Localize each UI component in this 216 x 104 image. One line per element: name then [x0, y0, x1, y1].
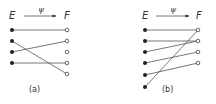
panel-b: E ψ F (b)	[142, 5, 202, 94]
panel-a: E ψ F (a)	[9, 5, 70, 94]
codomain-label-f: F	[64, 10, 70, 21]
domain-label-e: E	[142, 10, 149, 21]
domain-label-e: E	[9, 10, 16, 21]
mapping-edges	[12, 30, 67, 74]
map-label-psi: ψ	[38, 5, 45, 14]
caption-a: (a)	[29, 85, 40, 94]
domain-points	[143, 28, 147, 89]
domain-points	[10, 28, 14, 65]
mapping-edges	[145, 30, 198, 87]
codomain-label-f: F	[196, 10, 202, 21]
function-mapping-diagrams: E ψ F (a) E ψ F	[0, 0, 216, 104]
codomain-points	[196, 28, 200, 65]
map-label-psi: ψ	[170, 5, 177, 14]
caption-b: (b)	[162, 85, 173, 94]
codomain-points	[65, 28, 69, 76]
